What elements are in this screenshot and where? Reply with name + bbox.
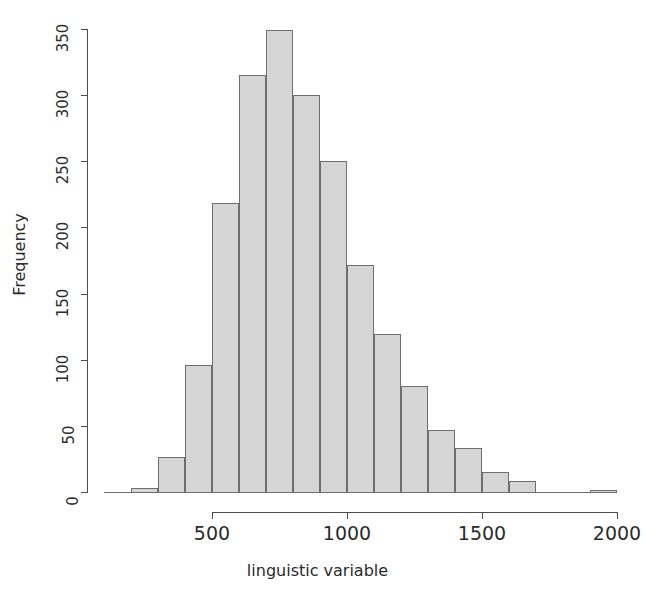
- y-axis-tick-label-text: 300: [55, 90, 73, 119]
- histogram-bar: [104, 492, 131, 493]
- x-axis-line: [212, 512, 618, 513]
- y-axis-tick: [81, 294, 87, 295]
- histogram-bar: [374, 334, 401, 493]
- histogram-bar: [212, 203, 239, 493]
- histogram-bar: [131, 488, 158, 493]
- x-axis-tick: [617, 512, 618, 519]
- histogram-bar: [266, 30, 293, 493]
- histogram-bar: [185, 365, 212, 493]
- histogram-bar: [158, 457, 185, 493]
- y-axis-tick: [81, 95, 87, 96]
- histogram-bar: [563, 492, 590, 493]
- x-axis-tick-label: 500: [172, 522, 252, 544]
- histogram-bar: [293, 95, 320, 493]
- histogram-bar: [428, 430, 455, 493]
- plot-area: [88, 20, 623, 493]
- histogram-bar: [347, 265, 374, 493]
- y-axis-title-label: Frequency: [10, 213, 29, 296]
- histogram-bar: [455, 448, 482, 493]
- y-axis-tick-label-text: 250: [55, 156, 73, 185]
- x-axis-tick: [482, 512, 483, 519]
- y-axis-tick-label-text: 200: [55, 222, 73, 251]
- y-axis-tick-label-text: 50: [59, 425, 77, 444]
- histogram-bar: [536, 492, 563, 493]
- y-axis-tick: [81, 426, 87, 427]
- y-axis-tick: [81, 360, 87, 361]
- y-axis-tick-label-text: 150: [55, 288, 73, 317]
- histogram-bar: [320, 161, 347, 493]
- y-axis-tick: [81, 492, 87, 493]
- y-axis-tick-label-text: 0: [64, 496, 82, 506]
- x-axis-tick-label: 2000: [577, 522, 645, 544]
- y-axis-tick: [81, 227, 87, 228]
- x-axis-title-label: linguistic variable: [247, 561, 388, 580]
- histogram-bar: [401, 386, 428, 493]
- y-axis-tick: [81, 161, 87, 162]
- histogram-bar: [590, 490, 617, 493]
- x-axis-tick: [212, 512, 213, 519]
- histogram-bar: [482, 472, 509, 493]
- y-axis-tick-label-text: 100: [55, 354, 73, 383]
- histogram-bar: [509, 481, 536, 493]
- histogram-bar: [239, 75, 266, 493]
- y-axis-title: Frequency: [8, 0, 30, 592]
- y-axis-tick: [81, 29, 87, 30]
- x-axis-title: linguistic variable: [0, 561, 635, 580]
- x-axis-tick-label: 1000: [307, 522, 387, 544]
- x-axis-tick-label: 1500: [442, 522, 522, 544]
- x-axis-tick: [347, 512, 348, 519]
- y-axis-tick-label-text: 350: [55, 24, 73, 53]
